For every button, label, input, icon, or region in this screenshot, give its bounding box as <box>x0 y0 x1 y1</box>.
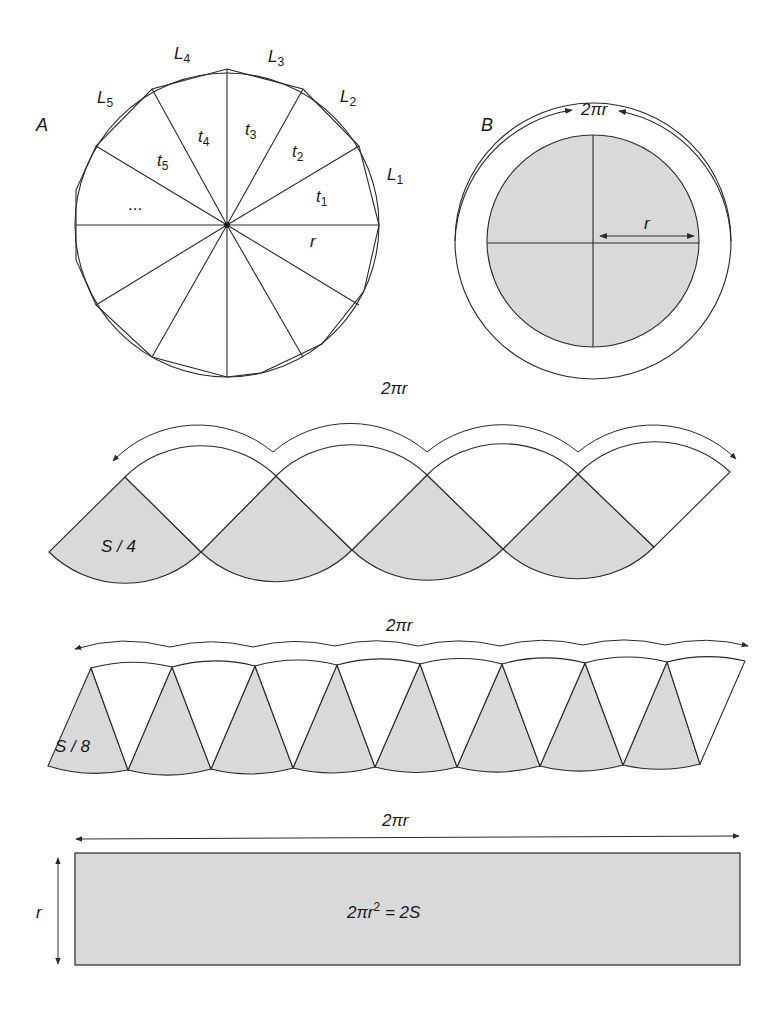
figure-a-label: A <box>36 116 48 134</box>
figure-a-center-point <box>225 223 230 228</box>
figure-a-radius-label: r <box>310 233 316 250</box>
figure-b-radius-label: r <box>644 215 650 232</box>
figure-a-ellipsis: ... <box>128 196 142 213</box>
triangle-label-t2: t2 <box>292 143 303 163</box>
triangle-label-t3: t3 <box>245 121 256 141</box>
triangle-label-t4: t4 <box>198 128 209 148</box>
strip-quarters-span-label: 2πr <box>381 380 408 397</box>
strip-quarters-piece-label: S / 4 <box>101 538 136 555</box>
figure-canvas <box>0 0 781 1012</box>
figure-b-label: B <box>481 116 493 134</box>
strip-eighths-span-arrow <box>75 640 748 649</box>
triangle-label-t5: t5 <box>157 152 168 172</box>
vertex-label-l4: L4 <box>174 45 190 65</box>
strip-eighths-span-label: 2πr <box>386 617 413 634</box>
figure-b-circumference-label: 2πr <box>581 101 608 118</box>
rectangle-width-arrow <box>76 836 739 839</box>
triangle-label-t1: t1 <box>316 188 327 208</box>
vertex-label-l1: L1 <box>387 166 403 186</box>
rectangle-area-formula: 2πr2 = 2S <box>347 901 420 921</box>
rectangle-width-label: 2πr <box>382 812 409 829</box>
strip-eighths-piece-label: S / 8 <box>55 738 90 755</box>
vertex-label-l3: L3 <box>268 48 284 68</box>
rectangle-height-label: r <box>36 904 42 921</box>
figure-b-circle <box>455 103 731 379</box>
figure-a-inscribed-polygon <box>75 69 379 377</box>
vertex-label-l5: L5 <box>97 89 113 109</box>
vertex-label-l2: L2 <box>340 88 356 108</box>
strip-quarters <box>49 423 736 583</box>
strip-eighths <box>48 640 748 775</box>
